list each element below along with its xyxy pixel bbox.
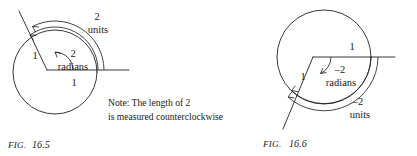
label-terminal-radius-right: 1 <box>300 71 305 82</box>
label-initial-radius-right: 1 <box>349 41 354 52</box>
label-angle-unit-left: radians <box>58 61 88 72</box>
arc-length-outer-arrowhead-right <box>288 92 294 98</box>
terminal-side-ray-right <box>283 57 313 129</box>
label-arc-value-left: 2 <box>94 11 99 22</box>
caption-number-fig-16-5: 16.5 <box>32 139 50 150</box>
label-angle-unit-right: radians <box>326 77 356 88</box>
arc-length-inner-arrowhead-right <box>292 86 298 92</box>
figure-16-5-group: 1 1 2 radians 2 units Note: The length o… <box>7 11 223 150</box>
label-angle-value-left: 2 <box>70 48 75 59</box>
terminal-side-ray-left <box>19 11 47 70</box>
label-arc-value-right: –2 <box>352 96 364 107</box>
label-angle-value-right: –2 <box>334 64 346 75</box>
caption-prefix-fig-16-5: FIG. <box>7 140 26 150</box>
note-line-1: Note: The length of 2 <box>108 97 191 108</box>
label-terminal-radius-left: 1 <box>32 50 37 61</box>
figure-sheet: 1 1 2 radians 2 units Note: The length o… <box>0 0 417 156</box>
label-initial-radius-left: 1 <box>71 77 76 88</box>
unit-circle-left <box>13 30 97 114</box>
note-line-2: is measured counterclockwise <box>108 111 223 122</box>
label-arc-unit-left: units <box>88 24 108 35</box>
geometry-diagram-canvas: 1 1 2 radians 2 units Note: The length o… <box>0 0 417 156</box>
caption-prefix-fig-16-6: FIG. <box>262 139 281 149</box>
caption-number-fig-16-6: 16.6 <box>289 138 308 149</box>
label-arc-unit-right: units <box>350 109 370 120</box>
angle-arc-arrowhead-left <box>55 52 60 57</box>
figure-16-6-group: 1 1 –2 radians –2 units FIG. 16.6 <box>262 10 395 149</box>
